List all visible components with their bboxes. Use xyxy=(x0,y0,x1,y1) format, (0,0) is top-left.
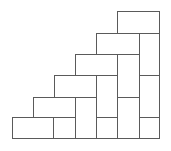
staircase-diagram xyxy=(0,0,171,151)
block-rect xyxy=(76,98,97,139)
block-group xyxy=(13,12,160,139)
block-rect xyxy=(13,118,54,139)
block-rect xyxy=(55,76,97,98)
block-rect xyxy=(97,76,118,118)
block-rect xyxy=(97,34,140,55)
block-rect xyxy=(76,55,118,76)
block-rect xyxy=(140,34,160,76)
block-rect xyxy=(118,12,160,34)
block-rect xyxy=(34,98,76,118)
block-rect xyxy=(140,118,160,139)
block-rect xyxy=(118,55,140,98)
block-rect xyxy=(97,118,118,139)
block-rect xyxy=(140,76,160,118)
block-rect xyxy=(54,118,76,139)
block-rect xyxy=(118,98,140,139)
